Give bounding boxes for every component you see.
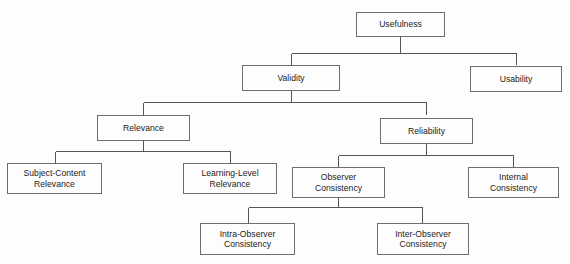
connector-relevance-children <box>56 141 231 163</box>
hierarchy-diagram: UsefulnessValidityUsabilityRelevanceReli… <box>0 0 570 264</box>
node-subject-content-relevance: Subject-Content Relevance <box>7 163 102 194</box>
node-internal-consistency: Internal Consistency <box>468 167 559 198</box>
connector-reliability-children <box>339 144 514 167</box>
node-usability: Usability <box>470 66 562 92</box>
node-validity: Validity <box>242 65 340 91</box>
connector-usefulness-children <box>292 37 517 65</box>
node-relevance: Relevance <box>97 115 190 141</box>
connector-observer-consistency-children <box>249 198 423 223</box>
node-reliability: Reliability <box>380 118 473 144</box>
node-observer-consistency: Observer Consistency <box>292 167 385 198</box>
node-inter-observer-consistency: Inter-Observer Consistency <box>377 223 469 255</box>
node-learning-level-relevance: Learning-Level Relevance <box>183 163 277 194</box>
node-intra-observer-consistency: Intra-Observer Consistency <box>200 223 295 255</box>
node-usefulness: Usefulness <box>356 12 445 37</box>
connector-validity-children <box>144 91 427 115</box>
